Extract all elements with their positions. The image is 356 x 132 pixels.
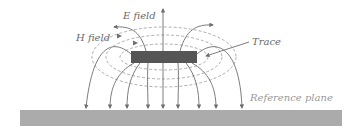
trace-label: Trace xyxy=(252,36,281,47)
reference-plane-label: Reference plane xyxy=(249,92,333,103)
trace-field-diagram: E field H field Trace Reference plane xyxy=(0,0,356,132)
h-field-label: H field xyxy=(75,32,110,43)
trace xyxy=(131,51,197,63)
reference-plane xyxy=(20,110,342,126)
e-field-label: E field xyxy=(122,10,156,21)
